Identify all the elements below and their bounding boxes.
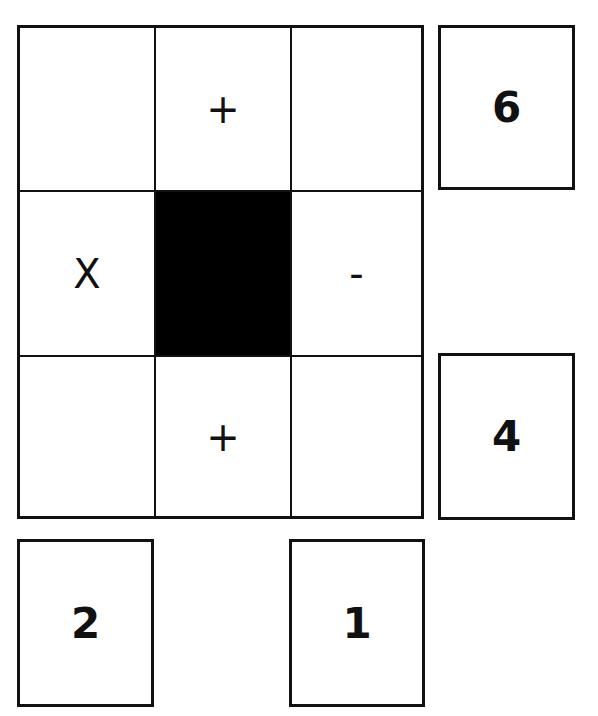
cell-r1-c3[interactable] [292, 28, 421, 192]
clue-col3-result: 1 [289, 539, 425, 707]
cell-r1-c1[interactable] [20, 28, 156, 192]
cell-r1-c2[interactable]: + [156, 28, 292, 192]
cell-r2-c2-filled [156, 192, 292, 357]
cell-r2-c3[interactable]: - [292, 192, 421, 357]
clue-row1-result: 6 [438, 25, 575, 190]
cell-r3-c1[interactable] [20, 357, 156, 516]
cell-r3-c2[interactable]: + [156, 357, 292, 516]
cell-r3-c3[interactable] [292, 357, 421, 516]
clue-col1-result: 2 [17, 539, 154, 707]
cell-r2-c1[interactable]: X [20, 192, 156, 357]
puzzle-grid: + X - + [17, 25, 424, 519]
clue-row3-result: 4 [438, 353, 575, 520]
